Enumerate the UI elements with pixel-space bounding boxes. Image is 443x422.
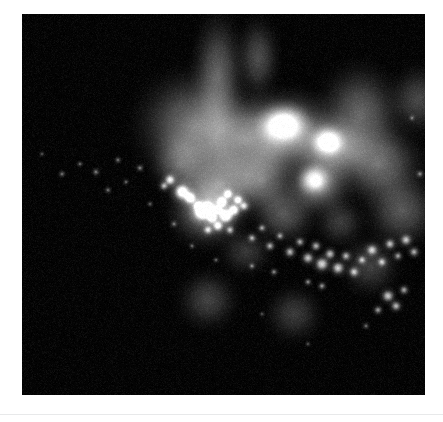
page-root	[0, 0, 443, 422]
footer-divider	[0, 414, 443, 415]
micrograph-image	[22, 14, 425, 395]
fluorescence-micrograph-panel	[22, 14, 425, 395]
